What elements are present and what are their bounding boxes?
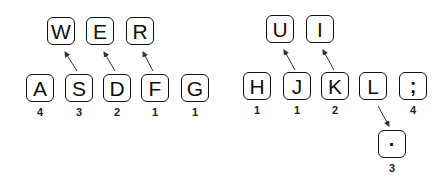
finger-number-a: 4 xyxy=(26,106,54,118)
key-a: A xyxy=(26,74,54,102)
finger-number-period: 3 xyxy=(378,162,406,174)
finger-number-d: 2 xyxy=(103,106,131,118)
key-semicolon: ; xyxy=(399,72,427,100)
key-h: H xyxy=(243,72,271,100)
arrow-k-to-i xyxy=(323,50,334,70)
arrow-s-to-w xyxy=(65,52,77,71)
finger-number-f: 1 xyxy=(141,106,169,118)
arrow-d-to-e xyxy=(104,52,115,71)
finger-number-semicolon: 4 xyxy=(399,104,427,116)
key-r: R xyxy=(126,17,154,45)
key-s: S xyxy=(65,74,93,102)
key-g: G xyxy=(181,74,209,102)
finger-number-h: 1 xyxy=(243,104,271,116)
arrow-l-to-period xyxy=(378,106,389,126)
finger-number-s: 3 xyxy=(65,106,93,118)
key-d: D xyxy=(103,74,131,102)
finger-number-g: 1 xyxy=(181,106,209,118)
key-j: J xyxy=(283,72,311,100)
finger-number-j: 1 xyxy=(283,104,311,116)
key-f: F xyxy=(141,74,169,102)
key-l: L xyxy=(359,72,387,100)
key-w: W xyxy=(47,17,75,45)
key-e: E xyxy=(86,17,114,45)
key-period: · xyxy=(378,130,406,158)
finger-number-k: 2 xyxy=(321,104,349,116)
arrow-f-to-r xyxy=(143,52,153,71)
key-u: U xyxy=(266,15,294,43)
key-k: K xyxy=(321,72,349,100)
key-i: I xyxy=(306,15,334,43)
arrow-j-to-u xyxy=(284,50,295,70)
